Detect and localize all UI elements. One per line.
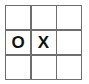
board-cell-row1-col2[interactable] [32,6,56,29]
tic-tac-toe-grid: O X [5,5,82,80]
board-cell-row2-col1[interactable]: O [6,31,30,54]
board-cell-row2-col3[interactable] [57,31,81,54]
cell-mark-o: O [11,34,24,51]
board-cell-row3-col1[interactable] [6,56,30,79]
board-cell-row1-col1[interactable] [6,6,30,29]
cell-mark-x: X [38,34,49,51]
board-cell-row1-col3[interactable] [57,6,81,29]
board-cell-row3-col2[interactable] [32,56,56,79]
board-cell-row3-col3[interactable] [57,56,81,79]
board-cell-row2-col2[interactable]: X [32,31,56,54]
tic-tac-toe-board-container: O X [0,0,89,84]
